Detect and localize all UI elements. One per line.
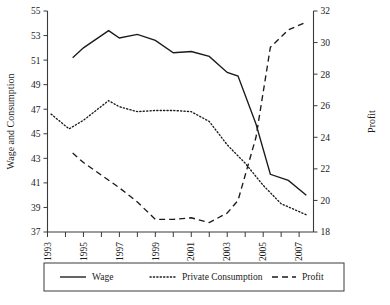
legend-label-profit: Profit: [302, 272, 324, 282]
right-axis: 1820222426283032: [314, 6, 331, 237]
left-axis-tick-label: 37: [31, 227, 41, 237]
x-axis-tick-label: 2005: [258, 242, 268, 261]
left-axis-tick-label: 49: [31, 80, 41, 90]
line-chart: 37394143454749515355 1820222426283032 19…: [0, 0, 390, 305]
legend-label-private-consumption: Private Consumption: [182, 272, 263, 282]
right-axis-title: Profit: [366, 110, 377, 133]
x-axis-tick-label: 2001: [186, 242, 196, 261]
right-axis-tick-label: 24: [321, 133, 331, 143]
left-axis-tick-label: 47: [31, 105, 41, 115]
left-axis-tick-label: 41: [31, 178, 41, 188]
x-axis-tick-label: 2007: [294, 242, 304, 261]
right-axis-tick-label: 28: [321, 70, 331, 80]
left-axis-tick-label: 55: [31, 6, 41, 16]
right-axis-tick-label: 26: [321, 101, 331, 111]
legend-label-wage: Wage: [92, 272, 113, 282]
x-axis-tick-label: 1999: [151, 242, 161, 261]
left-axis-title: Wage and Consumption: [5, 74, 16, 170]
axis-titles: Wage and ConsumptionProfit: [5, 74, 377, 170]
right-axis-tick-label: 22: [321, 164, 331, 174]
x-axis-tick-label: 1993: [43, 242, 53, 261]
left-axis-tick-label: 43: [31, 154, 41, 164]
right-axis-tick-label: 32: [321, 6, 331, 16]
right-axis-tick-label: 18: [321, 227, 331, 237]
x-axis-tick-label: 1997: [115, 242, 125, 261]
x-axis-tick-label: 2003: [222, 242, 232, 261]
x-axis: 19931995199719992001200320052007: [43, 232, 314, 261]
left-axis-tick-label: 45: [31, 129, 41, 139]
series-lines: [51, 22, 306, 222]
chart-container: 37394143454749515355 1820222426283032 19…: [0, 0, 390, 305]
left-axis: 37394143454749515355: [31, 6, 48, 237]
x-axis-tick-label: 1995: [79, 242, 89, 261]
chart-legend: WagePrivate ConsumptionProfit: [44, 263, 344, 291]
series-line-private-consumption: [51, 101, 306, 215]
left-axis-tick-label: 53: [31, 31, 41, 41]
left-axis-tick-label: 51: [31, 56, 41, 66]
series-line-wage: [73, 31, 307, 196]
right-axis-tick-label: 20: [321, 196, 331, 206]
left-axis-tick-label: 39: [31, 203, 41, 213]
right-axis-tick-label: 30: [321, 38, 331, 48]
